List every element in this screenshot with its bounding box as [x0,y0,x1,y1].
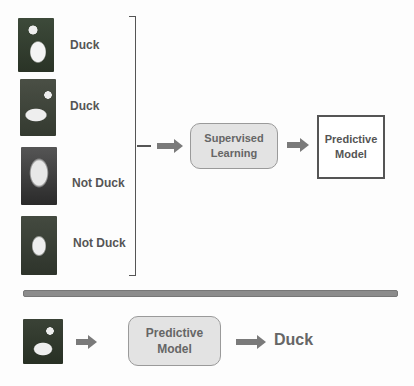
example-label: Not Duck [73,236,126,250]
white-duck-photo [18,18,54,72]
duck-photo [23,319,63,364]
predictive-model-box: PredictiveModel [128,316,221,366]
section-divider [23,290,398,297]
supervised-learning-box: SupervisedLearning [190,123,278,169]
arrow-right-icon [157,141,183,151]
arrow-right-icon [287,140,309,150]
example-label: Duck [70,99,99,113]
bracket-tick [137,145,151,147]
grouping-bracket [129,16,136,276]
example-label: Duck [70,38,99,52]
prediction-output-label: Duck [274,331,313,349]
arrow-right-icon [236,337,266,347]
arrow-right-icon [76,337,96,347]
walking-duck-photo [20,79,56,136]
eagle-photo [21,147,57,205]
predictive-model-box: PredictiveModel [317,115,385,179]
chicken-photo [21,216,57,275]
example-label: Not Duck [72,176,125,190]
